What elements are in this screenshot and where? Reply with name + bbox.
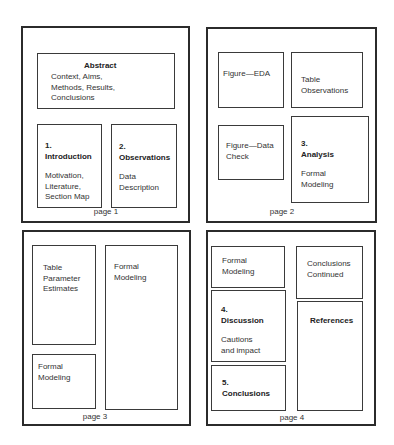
table-parameter-estimates-box: Table Parameter Estimates	[32, 245, 96, 345]
figure-eda-box: Figure—EDA	[218, 52, 284, 108]
abstract-line-3: Conclusions	[51, 93, 115, 104]
formal-modeling-small-line-2: Modeling	[38, 373, 70, 384]
formal-modeling-line-1: Formal	[222, 256, 254, 267]
introduction-line-3: Section Map	[45, 192, 92, 203]
analysis-title: Analysis	[301, 150, 334, 161]
conclusions-continued-box: Conclusions Continued	[296, 246, 363, 299]
analysis-line-1: Formal	[301, 169, 334, 180]
analysis-number: 3.	[301, 139, 334, 150]
introduction-line-1: Motivation,	[45, 171, 92, 182]
conclusions-title: Conclusions	[222, 389, 270, 400]
table-observations-line-2: Observations	[301, 86, 348, 97]
discussion-number: 4.	[221, 305, 264, 316]
introduction-line-2: Literature,	[45, 182, 92, 193]
formal-modeling-line-2: Modeling	[222, 267, 254, 278]
references-title: References	[310, 316, 353, 327]
introduction-title: Introduction	[45, 152, 92, 163]
introduction-box: 1. Introduction Motivation, Literature, …	[37, 124, 102, 208]
introduction-number: 1.	[45, 141, 92, 152]
formal-modeling-tall-line-2: Modeling	[114, 273, 146, 284]
observations-number: 2.	[119, 142, 170, 153]
discussion-box: 4. Discussion Cautions and impact	[211, 290, 286, 362]
formal-modeling-tall-line-1: Formal	[114, 262, 146, 273]
page-4-label: page 4	[280, 413, 304, 422]
figure-data-check-line-2: Check	[226, 152, 274, 163]
formal-modeling-tall-box: Formal Modeling	[105, 245, 178, 410]
abstract-title: Abstract	[84, 61, 116, 72]
conclusions-continued-line-2: Continued	[307, 270, 351, 281]
table-parameter-estimates-line-1: Table	[43, 263, 80, 274]
conclusions-box: 5. Conclusions	[211, 365, 286, 411]
observations-line-2: Description	[119, 183, 170, 194]
table-parameter-estimates-line-2: Parameter	[43, 274, 80, 285]
table-observations-box: Table Observations	[291, 52, 363, 108]
figure-data-check-line-1: Figure—Data	[226, 141, 274, 152]
formal-modeling-box: Formal Modeling	[211, 246, 285, 288]
observations-line-1: Data	[119, 172, 170, 183]
conclusions-number: 5.	[222, 378, 270, 389]
table-parameter-estimates-line-3: Estimates	[43, 284, 80, 295]
conclusions-continued-line-1: Conclusions	[307, 259, 351, 270]
observations-box: 2. Observations Data Description	[111, 124, 177, 208]
figure-eda-line-1: Figure—EDA	[223, 69, 270, 80]
analysis-line-2: Modeling	[301, 180, 334, 191]
page-3-label: page 3	[83, 412, 107, 421]
abstract-box: Abstract Context, Aims, Methods, Results…	[37, 53, 175, 109]
formal-modeling-small-line-1: Formal	[38, 362, 70, 373]
abstract-line-2: Methods, Results,	[51, 83, 115, 94]
table-observations-line-1: Table	[301, 75, 348, 86]
formal-modeling-small-box: Formal Modeling	[32, 354, 96, 409]
figure-data-check-box: Figure—Data Check	[218, 125, 284, 180]
page-1-label: page 1	[94, 207, 118, 216]
page-2-label: page 2	[270, 207, 294, 216]
discussion-title: Discussion	[221, 316, 264, 327]
abstract-line-1: Context, Aims,	[51, 72, 115, 83]
discussion-line-2: and impact	[221, 346, 264, 357]
analysis-box: 3. Analysis Formal Modeling	[291, 116, 369, 203]
references-box: References	[297, 301, 363, 411]
observations-title: Observations	[119, 153, 170, 164]
discussion-line-1: Cautions	[221, 335, 264, 346]
